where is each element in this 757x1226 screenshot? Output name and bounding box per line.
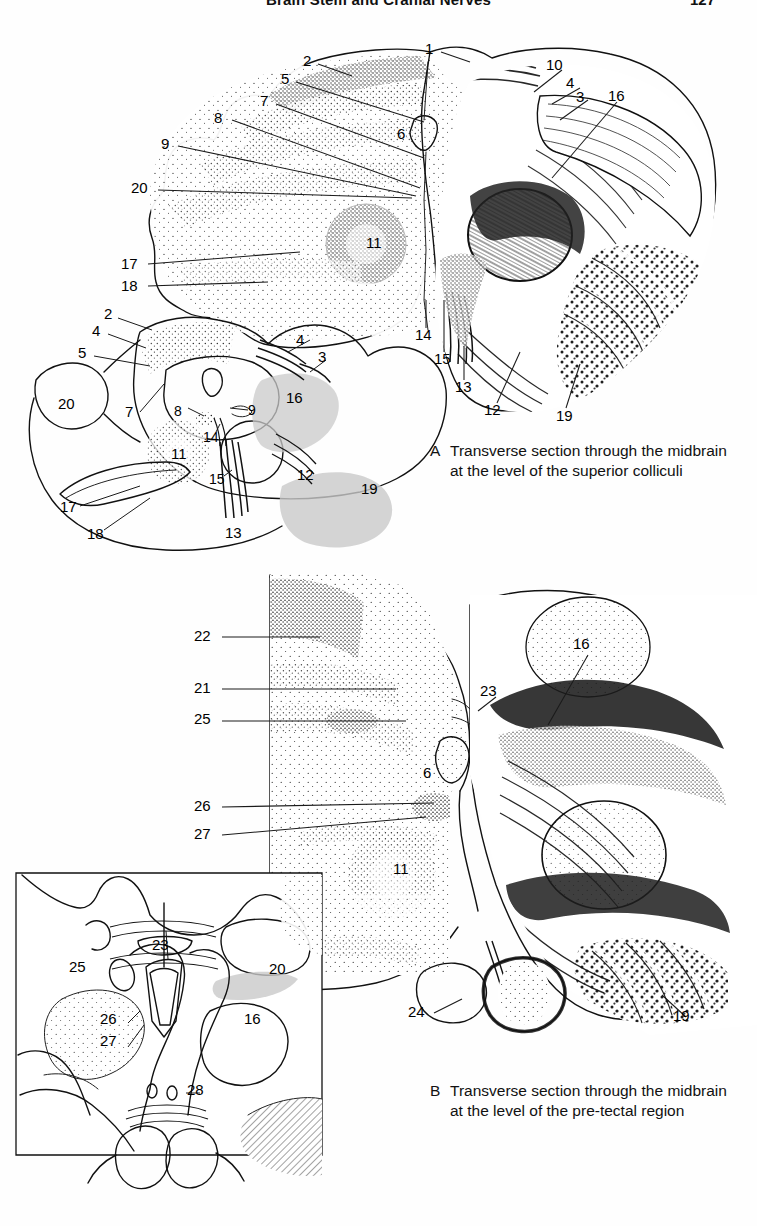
fig-a-schematic-label-14: 14 <box>203 430 219 444</box>
fig-a-schematic-label-5: 5 <box>78 345 86 360</box>
fig-a-label-11: 11 <box>366 235 382 250</box>
fig-a-label-19: 19 <box>556 408 573 423</box>
fig-b-schematic <box>16 873 322 1189</box>
fig-a-label-2: 2 <box>303 53 311 68</box>
fig-b-schematic-label-16: 16 <box>244 1011 261 1026</box>
fig-a-label-12: 12 <box>484 402 501 417</box>
figure-a-caption-text: Transverse section through the midbrain … <box>450 441 730 482</box>
figure-b-artwork <box>0 555 757 1155</box>
fig-b-schematic-label-28: 28 <box>187 1082 204 1097</box>
fig-a-label-3: 3 <box>576 89 584 104</box>
figure-b-caption: B Transverse section through the midbrai… <box>430 1081 730 1122</box>
fig-a-label-16: 16 <box>608 88 625 103</box>
fig-a-schematic-label-16: 16 <box>286 390 303 405</box>
fig-a-schematic-label-2: 2 <box>104 306 112 321</box>
fig-a-schematic-label-12: 12 <box>297 467 314 482</box>
fig-b-schematic-label-25: 25 <box>69 959 86 974</box>
fig-a-schematic-label-8: 8 <box>174 404 182 418</box>
fig-b-label-6: 6 <box>423 765 431 780</box>
fig-b-schematic-label-23: 23 <box>152 937 169 952</box>
fig-a-label-1: 1 <box>425 41 433 56</box>
fig-b-label-11: 11 <box>393 861 409 876</box>
fig-a-label-15: 15 <box>434 351 451 366</box>
fig-a-label-5: 5 <box>281 71 289 86</box>
textbook-page: Brain Stem and Cranial Nerves 127 <box>0 0 757 1226</box>
fig-b-label-19: 19 <box>673 1008 690 1023</box>
fig-b-label-23: 23 <box>480 683 497 698</box>
fig-b-label-24: 24 <box>408 1004 425 1019</box>
fig-b-label-16: 16 <box>573 636 590 651</box>
fig-a-label-4: 4 <box>566 75 574 90</box>
fig-b-label-25: 25 <box>194 711 211 726</box>
fig-b-label-26: 26 <box>194 798 211 813</box>
fig-a-label-7: 7 <box>260 93 268 108</box>
fig-a-label-18: 18 <box>121 278 138 293</box>
fig-a-schematic-label-4: 4 <box>92 323 100 338</box>
fig-b-label-27: 27 <box>194 826 211 841</box>
fig-b-label-22: 22 <box>194 628 211 643</box>
fig-a-label-9: 9 <box>161 136 169 151</box>
fig-b-label-21: 21 <box>194 680 211 695</box>
fig-a-schematic-label-15: 15 <box>209 472 225 486</box>
fig-b-schematic-label-27: 27 <box>100 1033 117 1048</box>
fig-a-label-20: 20 <box>131 180 148 195</box>
fig-a-schematic <box>29 317 446 550</box>
fig-a-label-8: 8 <box>214 110 222 125</box>
figure-b-caption-letter: B <box>430 1081 440 1101</box>
fig-b-schematic-label-26: 26 <box>100 1011 117 1026</box>
fig-a-schematic-label-11: 11 <box>171 446 187 461</box>
figure-a-caption: A Transverse section through the midbrai… <box>430 441 730 482</box>
fig-a-schematic-label-3: 3 <box>318 349 326 364</box>
fig-a-schematic-label-18: 18 <box>87 526 104 541</box>
fig-a-schematic-label-4b: 4 <box>296 332 304 347</box>
fig-a-schematic-label-17: 17 <box>60 499 77 514</box>
fig-a-label-10: 10 <box>546 57 563 72</box>
fig-a-label-13: 13 <box>455 379 472 394</box>
fig-a-label-17: 17 <box>121 256 138 271</box>
fig-a-schematic-label-13: 13 <box>225 525 242 540</box>
fig-a-schematic-label-20: 20 <box>58 396 75 411</box>
fig-a-schematic-label-19: 19 <box>361 481 378 496</box>
figure-b-caption-text: Transverse section through the midbrain … <box>450 1081 730 1122</box>
fig-a-schematic-label-7: 7 <box>125 404 133 419</box>
fig-a-label-14: 14 <box>415 327 432 342</box>
fig-a-label-6: 6 <box>397 126 405 141</box>
fig-b-schematic-label-20: 20 <box>269 961 286 976</box>
figure-a-caption-letter: A <box>430 441 440 461</box>
fig-a-schematic-label-9: 9 <box>248 403 256 417</box>
